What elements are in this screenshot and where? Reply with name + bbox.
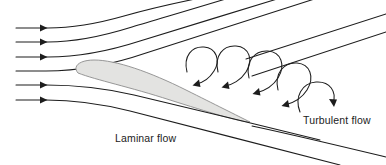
vortex-3-arrowhead-icon <box>253 88 261 96</box>
inlet-arrow-2-icon <box>40 39 48 46</box>
inlet-arrow-4-icon <box>40 82 48 89</box>
vortex-1-arc <box>186 47 217 84</box>
inlet-arrow-5-icon <box>40 97 48 104</box>
vortex-4-arrowhead-icon <box>282 100 290 108</box>
laminar-flow-label: Laminar flow <box>115 132 177 144</box>
exit-streamline-group <box>246 14 386 157</box>
vortex-4-arc <box>277 63 311 105</box>
inlet-arrow-1-icon <box>40 25 48 32</box>
exit-streamline-lower-1-path <box>252 126 386 157</box>
upper-streamline-group <box>16 0 330 71</box>
flow-diagram-figure: Laminar flow Turbulent flow <box>0 0 386 165</box>
vortex-5 <box>298 82 337 112</box>
inlet-arrowhead-group <box>40 25 48 104</box>
vortex-1 <box>186 47 217 87</box>
vortex-5-arrowhead-icon <box>329 99 337 107</box>
inlet-arrow-3-icon <box>40 54 48 61</box>
vortex-5-arc <box>298 82 334 112</box>
flow-diagram-svg: Laminar flow Turbulent flow <box>0 0 386 165</box>
airfoil-group <box>76 60 250 122</box>
vortex-2 <box>217 46 250 89</box>
turbulent-flow-label: Turbulent flow <box>303 114 371 126</box>
streamline-2-path <box>16 0 268 42</box>
vortex-1-arrowhead-icon <box>193 80 201 88</box>
streamline-3-path <box>16 0 300 57</box>
exit-streamline-upper-2-path <box>252 32 386 76</box>
streamline-4-path <box>16 0 330 71</box>
vortex-2-arc <box>217 46 250 86</box>
exit-streamline-upper-1-path <box>246 14 386 59</box>
vortex-2-arrowhead-icon <box>222 82 230 90</box>
airfoil-shape-icon <box>76 60 250 122</box>
vortex-3 <box>248 51 282 96</box>
